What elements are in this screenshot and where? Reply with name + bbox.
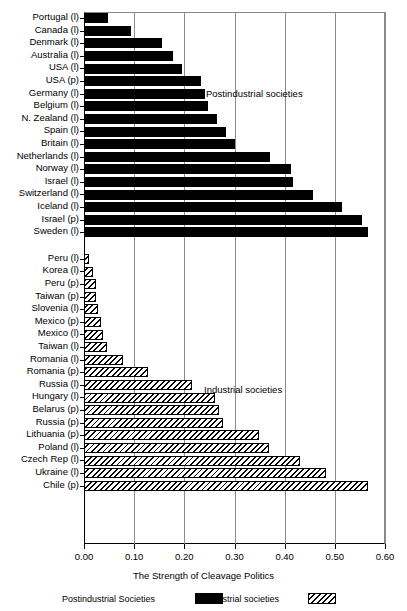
bar-row: Britain (l) [84, 138, 385, 151]
y-axis-label: Portugal (l) [33, 11, 79, 24]
bar-lithuania-p [84, 430, 259, 440]
x-axis-title: The Strength of Cleavage Politics [0, 570, 407, 581]
y-axis-label: Peru (l) [48, 252, 79, 265]
x-tick-mark [385, 544, 386, 549]
annotation-postindustrial: Postindustrial societies [206, 88, 303, 99]
bar-britain-l [84, 139, 235, 149]
y-axis-label: Taiwan (l) [38, 340, 79, 353]
x-tick-mark [235, 544, 236, 549]
bar-ukraine-l [84, 468, 326, 478]
y-axis-label: Romania (p) [27, 365, 79, 378]
x-tick-mark [134, 544, 135, 549]
x-tick-mark [184, 544, 185, 549]
bar-hungary-l [84, 393, 215, 403]
y-axis-label: Czech Rep (l) [21, 453, 79, 466]
bar-peru-p [84, 279, 96, 289]
y-axis-label: Sweden (l) [34, 225, 79, 238]
y-axis-label: Russia (p) [36, 416, 79, 429]
bar-row: Chile (p) [84, 480, 385, 493]
bar-czech-rep-l [84, 456, 300, 466]
bar-row: Belarus (p) [84, 404, 385, 417]
bar-row: Iceland (l) [84, 201, 385, 214]
bar-row: Israel (l) [84, 176, 385, 189]
bar-row: Czech Rep (l) [84, 454, 385, 467]
bar-mexico-l [84, 330, 103, 340]
y-axis-label: Canada (l) [35, 24, 79, 37]
y-axis-label: Netherlands (l) [17, 150, 79, 163]
x-tick-mark [84, 544, 85, 549]
y-axis-label: Spain (l) [44, 124, 79, 137]
y-axis-label: N. Zealand (l) [21, 112, 79, 125]
bar-row: Canada (l) [84, 25, 385, 38]
y-axis-label: Hungary (l) [32, 390, 79, 403]
y-axis-label: Israel (l) [45, 175, 79, 188]
legend-label-postindustrial: Postindustrial Societies [62, 594, 155, 604]
y-axis-label: Poland (l) [38, 441, 79, 454]
y-axis-label: USA (p) [46, 74, 79, 87]
bar-row: Poland (l) [84, 442, 385, 455]
bar-row: Peru (l) [84, 253, 385, 266]
bar-row: Korea (l) [84, 265, 385, 278]
y-axis-label: Taiwan (p) [35, 290, 79, 303]
y-axis-label: Mexico (p) [35, 315, 79, 328]
bar-taiwan-p [84, 292, 96, 302]
bar-netherlands-l [84, 152, 270, 162]
y-axis-label: Switzerland (l) [19, 187, 79, 200]
bar-taiwan-l [84, 342, 107, 352]
bar-row: Taiwan (l) [84, 341, 385, 354]
bar-row: USA (p) [84, 75, 385, 88]
y-axis-label: Belarus (p) [33, 403, 79, 416]
bar-row: Ukraine (l) [84, 467, 385, 480]
bar-chile-p [84, 481, 368, 491]
bar-russia-l [84, 380, 192, 390]
bar-sweden-l [84, 227, 368, 237]
bar-canada-l [84, 26, 131, 36]
bar-row: USA (l) [84, 62, 385, 75]
bar-row: Lithuania (p) [84, 429, 385, 442]
bar-belgium-l [84, 101, 208, 111]
y-axis-label: Russia (l) [39, 378, 79, 391]
bar-usa-l [84, 64, 182, 74]
bar-denmark-l [84, 38, 162, 48]
y-axis-label: Belgium (l) [34, 99, 79, 112]
cleavage-politics-bar-chart: Portugal (l)Canada (l)Denmark (l)Austral… [0, 0, 407, 611]
bar-slovenia-l [84, 304, 98, 314]
bar-usa-p [84, 76, 201, 86]
bar-row: Peru (p) [84, 278, 385, 291]
legend-label-industrial: Industrial societies [205, 594, 279, 604]
x-tick-label: 0.60 [376, 551, 395, 562]
x-tick-mark [285, 544, 286, 549]
x-tick-mark [335, 544, 336, 549]
legend: Postindustrial Societies Industrial soci… [0, 592, 407, 610]
bar-belarus-p [84, 405, 219, 415]
y-axis-label: Chile (p) [43, 479, 79, 492]
y-axis-label: Australia (l) [31, 49, 79, 62]
bar-row: Australia (l) [84, 50, 385, 63]
y-axis-label: Romania (l) [30, 353, 79, 366]
bar-row: Slovenia (l) [84, 303, 385, 316]
y-axis-label: Iceland (l) [37, 200, 79, 213]
y-axis-label: Slovenia (l) [31, 302, 79, 315]
bar-spain-l [84, 127, 226, 137]
bar-row: Taiwan (p) [84, 291, 385, 304]
bar-iceland-l [84, 202, 342, 212]
bar-row: Norway (l) [84, 163, 385, 176]
x-tick-label: 0.20 [175, 551, 194, 562]
y-axis-label: Peru (p) [45, 277, 79, 290]
y-axis-label: Mexico (l) [38, 327, 79, 340]
bar-row: Mexico (l) [84, 328, 385, 341]
x-tick-label: 0.50 [326, 551, 345, 562]
plot-area: Portugal (l)Canada (l)Denmark (l)Austral… [84, 12, 385, 544]
bar-row: Romania (p) [84, 366, 385, 379]
bar-romania-p [84, 367, 148, 377]
x-axis: 0.000.100.200.300.400.500.60 [84, 544, 385, 566]
bar-israel-l [84, 177, 293, 187]
bar-peru-l [84, 254, 89, 264]
y-axis-label: Lithuania (p) [26, 428, 79, 441]
bar-row: Netherlands (l) [84, 151, 385, 164]
bar-germany-l [84, 89, 205, 99]
bar-israel-p [84, 215, 362, 225]
bar-n-zealand-l [84, 114, 217, 124]
bar-row: Sweden (l) [84, 226, 385, 239]
bar-row: Spain (l) [84, 125, 385, 138]
